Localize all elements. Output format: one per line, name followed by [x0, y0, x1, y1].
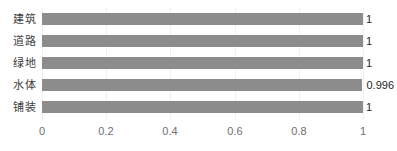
x-tick-label: 0.2 — [98, 124, 113, 138]
bar-track: 0.996 — [42, 79, 363, 91]
category-label: 道路 — [13, 30, 36, 52]
x-axis: 00.20.40.60.81 — [42, 124, 363, 140]
bar-row: 水体0.996 — [42, 74, 363, 96]
bar[interactable] — [42, 101, 363, 113]
category-label: 建筑 — [13, 8, 36, 30]
bar-track: 1 — [42, 13, 363, 25]
bar-row: 铺装1 — [42, 96, 363, 118]
bar-value-label: 1 — [366, 101, 372, 113]
bar-track: 1 — [42, 101, 363, 113]
x-tick-label: 0.6 — [227, 124, 242, 138]
gridline — [363, 8, 364, 120]
category-label: 铺装 — [13, 96, 36, 118]
x-tick-label: 0 — [39, 124, 45, 138]
bar-track: 1 — [42, 57, 363, 69]
bar-row: 建筑1 — [42, 8, 363, 30]
bar-value-label: 1 — [366, 13, 372, 25]
bar-row: 道路1 — [42, 30, 363, 52]
x-tick-label: 1 — [360, 124, 366, 138]
category-label: 水体 — [13, 74, 36, 96]
bar-value-label: 1 — [366, 57, 372, 69]
category-label: 绿地 — [13, 52, 36, 74]
x-tick-label: 0.8 — [291, 124, 306, 138]
x-tick-label: 0.4 — [162, 124, 177, 138]
bar-row: 绿地1 — [42, 52, 363, 74]
bar[interactable] — [42, 79, 362, 91]
bar-track: 1 — [42, 35, 363, 47]
bar[interactable] — [42, 35, 363, 47]
bar[interactable] — [42, 57, 363, 69]
plot-area: 建筑1道路1绿地1水体0.996铺装1 — [42, 8, 363, 120]
bar-value-label: 1 — [366, 35, 372, 47]
horizontal-bar-chart: 建筑1道路1绿地1水体0.996铺装1 00.20.40.60.81 — [0, 0, 397, 151]
bar[interactable] — [42, 13, 363, 25]
bar-value-label: 0.996 — [366, 79, 394, 91]
